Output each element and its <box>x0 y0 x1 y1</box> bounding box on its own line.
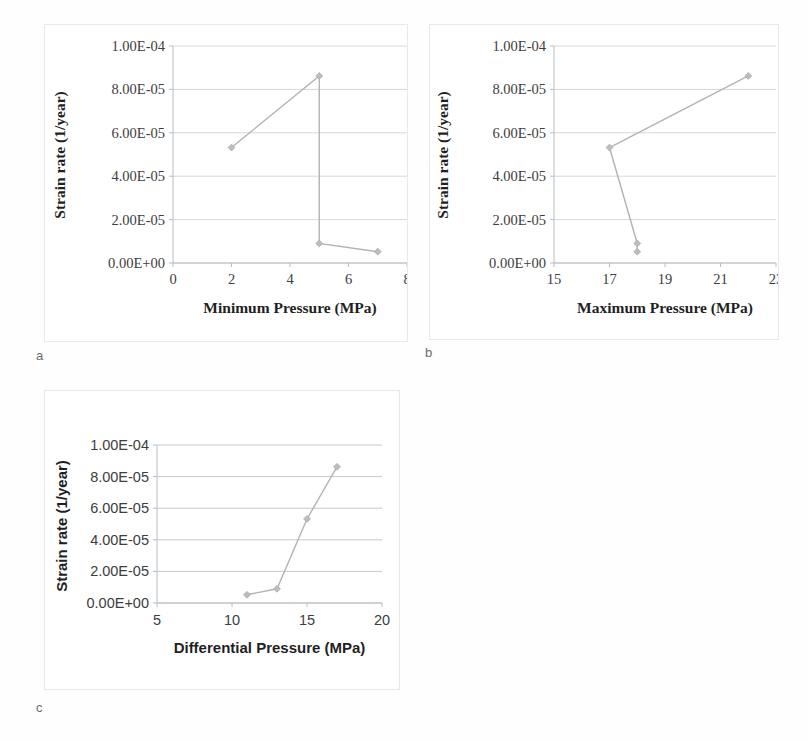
series-line <box>610 76 749 252</box>
panel-label-b: b <box>425 345 432 360</box>
y-axis-title: Strain rate (1/year) <box>51 91 69 218</box>
y-axis-tick-label: 1.00E-04 <box>111 38 165 54</box>
data-point-marker <box>745 73 752 80</box>
y-axis-tick-label: 6.00E-05 <box>492 125 546 141</box>
y-axis-tick-label: 1.00E-04 <box>492 38 546 54</box>
x-axis-tick-label: 23 <box>769 271 778 287</box>
data-point-marker <box>634 240 641 247</box>
y-axis-tick-label: 2.00E-05 <box>492 212 546 228</box>
x-axis-tick-label: 21 <box>713 271 728 287</box>
y-axis-tick-label: 2.00E-05 <box>111 212 165 228</box>
x-axis-tick-label: 0 <box>169 271 176 287</box>
chart-b-svg: 0.00E+002.00E-054.00E-056.00E-058.00E-05… <box>430 25 778 339</box>
figure-page: 0.00E+002.00E-054.00E-056.00E-058.00E-05… <box>0 0 808 741</box>
x-axis-tick-label: 5 <box>153 612 161 628</box>
x-axis-title: Maximum Pressure (MPa) <box>577 299 753 317</box>
y-axis-tick-label: 6.00E-05 <box>90 500 149 516</box>
series-line <box>232 76 378 252</box>
data-point-marker <box>606 144 613 151</box>
x-axis-tick-label: 4 <box>286 271 294 287</box>
data-point-marker <box>244 591 251 598</box>
x-axis-tick-label: 6 <box>345 271 352 287</box>
x-axis-tick-label: 15 <box>547 271 562 287</box>
y-axis-tick-label: 8.00E-05 <box>111 81 165 97</box>
panel-label-a: a <box>36 348 43 363</box>
x-axis-tick-label: 10 <box>224 612 240 628</box>
data-point-marker <box>634 248 641 255</box>
data-point-marker <box>274 585 281 592</box>
series-line <box>247 467 337 595</box>
x-axis-tick-label: 20 <box>374 612 390 628</box>
chart-c-svg: 0.00E+002.00E-054.00E-056.00E-058.00E-05… <box>45 391 399 689</box>
x-axis-tick-label: 2 <box>228 271 235 287</box>
x-axis-tick-label: 19 <box>658 271 673 287</box>
y-axis-tick-label: 8.00E-05 <box>90 469 149 485</box>
y-axis-tick-label: 0.00E+00 <box>108 255 165 271</box>
panel-label-c: c <box>36 700 43 715</box>
chart-panel-a: 0.00E+002.00E-054.00E-056.00E-058.00E-05… <box>44 24 408 342</box>
y-axis-tick-label: 8.00E-05 <box>492 81 546 97</box>
y-axis-tick-label: 0.00E+00 <box>489 255 546 271</box>
y-axis-tick-label: 6.00E-05 <box>111 125 165 141</box>
data-point-marker <box>304 516 311 523</box>
x-axis-title: Differential Pressure (MPa) <box>174 639 366 656</box>
x-axis-title: Minimum Pressure (MPa) <box>203 299 376 317</box>
y-axis-title: Strain rate (1/year) <box>53 460 70 592</box>
y-axis-tick-label: 0.00E+00 <box>87 595 150 611</box>
y-axis-title: Strain rate (1/year) <box>434 91 452 218</box>
data-point-marker <box>334 463 341 470</box>
y-axis-tick-label: 4.00E-05 <box>90 532 149 548</box>
data-point-marker <box>374 248 381 255</box>
x-axis-tick-label: 17 <box>602 271 617 287</box>
x-axis-tick-label: 15 <box>299 612 315 628</box>
y-axis-tick-label: 4.00E-05 <box>111 168 165 184</box>
data-point-marker <box>316 240 323 247</box>
chart-a-svg: 0.00E+002.00E-054.00E-056.00E-058.00E-05… <box>45 25 407 341</box>
y-axis-tick-label: 2.00E-05 <box>90 563 149 579</box>
chart-panel-b: 0.00E+002.00E-054.00E-056.00E-058.00E-05… <box>429 24 779 340</box>
y-axis-tick-label: 1.00E-04 <box>90 437 149 453</box>
chart-panel-c: 0.00E+002.00E-054.00E-056.00E-058.00E-05… <box>44 390 400 690</box>
x-axis-tick-label: 8 <box>403 271 407 287</box>
y-axis-tick-label: 4.00E-05 <box>492 168 546 184</box>
